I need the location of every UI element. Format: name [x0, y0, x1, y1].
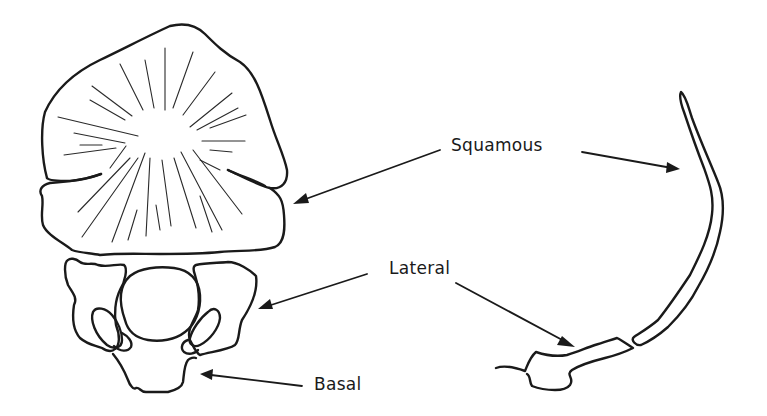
label-basal: Basal — [314, 374, 362, 394]
arrow-squamous-side — [582, 152, 680, 173]
diagram-canvas: Squamous Lateral Basal — [0, 0, 767, 416]
side-squamous-part — [633, 92, 723, 345]
arrow-squamous-front — [293, 150, 440, 204]
front-lateral-parts — [65, 259, 256, 355]
arrow-basal — [200, 369, 302, 386]
label-squamous: Squamous — [451, 135, 543, 155]
arrow-lateral-side — [456, 283, 575, 347]
front-basal-part — [113, 354, 196, 392]
label-lateral: Lateral — [389, 258, 450, 278]
front-squamous-part — [40, 25, 287, 255]
diagram-svg — [0, 0, 767, 416]
arrow-lateral-front — [258, 274, 367, 309]
radial-striations — [58, 48, 246, 242]
